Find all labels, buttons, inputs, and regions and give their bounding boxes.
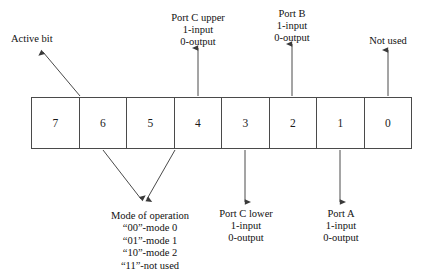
control-word-diagram: Active bit Port C upper 1-input 0-output… (0, 0, 421, 280)
bit-cell-6[interactable]: 6 (80, 98, 128, 148)
callout-port-c-lower-line1: Port C lower (196, 208, 296, 220)
callout-port-b-line1: Port B (247, 8, 337, 20)
callout-port-b-line3: 0-output (247, 32, 337, 44)
mode-entry-01: “01”-mode 1 (88, 235, 212, 247)
callout-port-b: Port B 1-input 0-output (247, 8, 337, 45)
bit-cell-2[interactable]: 2 (270, 98, 318, 148)
bit-cell-5[interactable]: 5 (127, 98, 175, 148)
bit-cell-1[interactable]: 1 (317, 98, 365, 148)
callout-active-bit: Active bit (11, 33, 53, 45)
callout-port-b-line2: 1-input (247, 20, 337, 32)
leader-mode-bit-5 (147, 150, 175, 199)
callout-mode-of-operation: Mode of operation “00”-mode 0 “01”-mode … (88, 210, 212, 272)
bit-cell-4[interactable]: 4 (175, 98, 223, 148)
callout-port-c-upper-line1: Port C upper (148, 12, 248, 24)
callout-port-c-lower-line3: 0-output (196, 232, 296, 244)
callout-port-a-line1: Port A (298, 208, 384, 220)
mode-entry-00: “00”-mode 0 (88, 222, 212, 234)
leader-mode-bit-6 (103, 150, 141, 199)
mode-entry-11: “11”-not used (88, 260, 212, 272)
callout-port-a-line3: 0-output (298, 232, 384, 244)
bit-cell-0[interactable]: 0 (365, 98, 412, 148)
bit-cell-7[interactable]: 7 (32, 98, 80, 148)
callout-port-a-line2: 1-input (298, 220, 384, 232)
leader-active-bit (43, 52, 80, 96)
callout-not-used: Not used (348, 35, 421, 47)
control-word-bit-row: 7 6 5 4 3 2 1 0 (31, 97, 412, 149)
callout-port-c-upper-line2: 1-input (148, 24, 248, 36)
mode-entry-10: “10”-mode 2 (88, 247, 212, 259)
callout-port-c-lower: Port C lower 1-input 0-output (196, 208, 296, 245)
bit-cell-3[interactable]: 3 (222, 98, 270, 148)
callout-port-a: Port A 1-input 0-output (298, 208, 384, 245)
callout-port-c-upper: Port C upper 1-input 0-output (148, 12, 248, 49)
mode-title: Mode of operation (88, 210, 212, 222)
callout-port-c-upper-line3: 0-output (148, 36, 248, 48)
callout-port-c-lower-line2: 1-input (196, 220, 296, 232)
